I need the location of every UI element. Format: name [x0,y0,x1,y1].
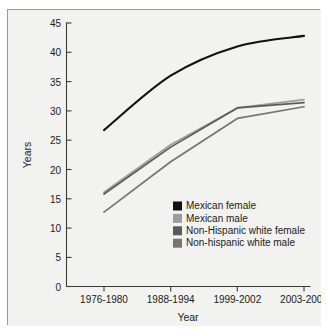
legend-label-1: Mexican male [186,213,248,224]
y-tick-label: 40 [50,47,62,58]
y-tick-label: 15 [50,194,62,205]
y-tick-label: 30 [50,106,62,117]
y-axis-title: Years [21,142,33,168]
line-chart: 45 40 35 30 25 20 15 10 5 0 1976-1980 19… [8,10,321,326]
y-tick-label: 5 [55,252,61,263]
x-tick-label: 2003-2004 [280,294,321,305]
y-tick-label: 45 [50,18,62,29]
y-tick-label: 20 [50,165,62,176]
legend-swatch-2 [173,226,182,235]
legend-label-0: Mexican female [186,200,256,211]
x-axis-title: Year [177,311,199,323]
x-tick-label: 1976-1980 [80,294,128,305]
x-tick-label: 1988-1994 [147,294,195,305]
legend-label-2: Non-Hispanic white female [186,225,305,236]
legend-swatch-1 [173,214,182,223]
chart-figure-frame: 45 40 35 30 25 20 15 10 5 0 1976-1980 19… [7,9,320,325]
legend-swatch-3 [173,239,182,248]
y-tick-label: 25 [50,135,62,146]
legend-swatch-0 [173,202,182,211]
x-tick-label: 1999-2002 [213,294,261,305]
y-tick-label: 35 [50,77,62,88]
legend-label-3: Non-hispanic white male [186,237,295,248]
y-tick-label: 0 [55,282,61,293]
y-tick-label: 10 [50,223,62,234]
